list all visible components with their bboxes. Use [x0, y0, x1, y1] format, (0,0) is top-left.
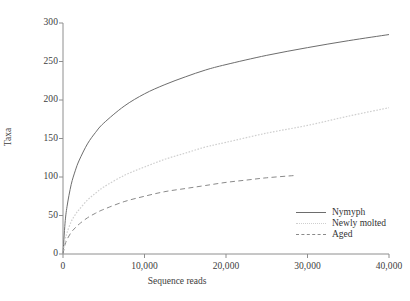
y-tick-label: 50 — [20, 210, 58, 220]
plot-area — [0, 0, 410, 301]
legend-label: Newly molted — [332, 218, 386, 229]
legend-swatch-solid — [296, 208, 326, 217]
legend-item-nymyph[interactable]: Nymyph — [296, 207, 386, 218]
y-axis-title: Taxa — [3, 117, 13, 157]
y-tick-label: 0 — [20, 248, 58, 258]
y-axis-ticks — [59, 23, 63, 254]
chart-legend: NymyphNewly moltedAged — [296, 207, 386, 240]
x-axis-ticks — [63, 254, 389, 258]
legend-label: Nymyph — [332, 207, 365, 218]
series-line-aged — [63, 175, 295, 254]
legend-swatch-dashed — [296, 230, 326, 239]
y-tick-label: 250 — [20, 56, 58, 66]
y-tick-label: 200 — [20, 94, 58, 104]
y-tick-label: 100 — [20, 171, 58, 181]
chart-figure: Taxa Sequence reads 050100150200250300 0… — [0, 0, 410, 301]
x-tick-label: 20,000 — [196, 261, 256, 271]
y-tick-label: 300 — [20, 17, 58, 27]
x-tick-label: 30,000 — [278, 261, 338, 271]
legend-item-newly-molted[interactable]: Newly molted — [296, 218, 386, 229]
x-tick-label: 10,000 — [115, 261, 175, 271]
legend-item-aged[interactable]: Aged — [296, 229, 386, 240]
x-tick-label: 40,000 — [359, 261, 410, 271]
y-tick-label: 150 — [20, 133, 58, 143]
x-tick-label: 0 — [33, 261, 93, 271]
legend-label: Aged — [332, 229, 353, 240]
x-axis-title: Sequence reads — [137, 276, 217, 286]
legend-swatch-dotted — [296, 219, 326, 228]
